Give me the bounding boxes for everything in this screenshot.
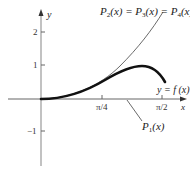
y-tick-label-2: 2	[33, 27, 38, 37]
chart: 2 1 −1 π/4 π/2 y x P2(x) = P3(x) = P4(x)…	[0, 0, 190, 173]
y-axis-label: y	[46, 9, 52, 20]
p234-label: P2(x) = P3(x) = P4(x)	[99, 5, 190, 19]
x-tick-label-pi4: π/4	[96, 102, 108, 112]
p1-label: P1(x)	[141, 120, 165, 134]
x-axis-arrow-icon	[180, 97, 187, 102]
y-tick-label-1: 1	[33, 60, 38, 70]
f-curve	[41, 66, 165, 99]
x-axis-label: x	[180, 102, 185, 112]
x-tick-label-pi2: π/2	[156, 102, 168, 112]
y-tick-label-m1: −1	[27, 126, 37, 136]
p1-leader-line	[127, 100, 142, 121]
fx-label: y = f (x)	[156, 84, 190, 96]
y-axis-arrow-icon	[39, 9, 44, 16]
p234-curve	[41, 12, 163, 99]
